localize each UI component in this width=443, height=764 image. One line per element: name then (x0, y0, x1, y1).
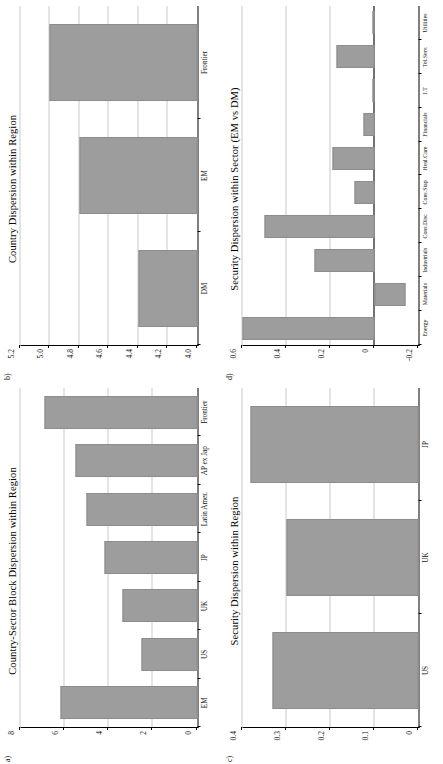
screenshot-page: a) Country-Sector Block Dispersion withi… (0, 0, 443, 764)
plot-wrap-d: -0.200.20.40.6EnergyMaterialsIndustrials… (242, 6, 436, 372)
bar[interactable] (332, 147, 374, 170)
x-axis-tick-label: Cons.Stap (421, 180, 427, 204)
x-axis-tick-label: UK (200, 601, 208, 611)
bar[interactable] (122, 589, 197, 622)
x-axis-tick-label: Industrials (421, 248, 427, 273)
x-axis-tick-mark (197, 532, 200, 533)
x-axis-tick-mark (418, 141, 421, 142)
y-axis-tick-mark (107, 345, 108, 348)
panel-letter-d: d) (224, 373, 233, 380)
panel-title-a: Country-Sector Block Dispersion within R… (6, 388, 17, 754)
x-axis-tick-label: EM (200, 170, 208, 181)
bar[interactable] (264, 215, 374, 238)
bar[interactable] (141, 638, 196, 671)
panel-security-dispersion-sector: d) Security Dispersion within Sector (EM… (222, 0, 443, 382)
x-axis-tick-label: US (200, 650, 208, 659)
bar-slot: Heal.Care (242, 142, 419, 176)
y-axis-tick-label: 0 (405, 731, 414, 735)
y-axis-tick-label: 4.4 (124, 349, 133, 359)
x-axis-tick-label: Latin Amer. (200, 492, 208, 526)
x-axis-tick-label: JP (200, 554, 208, 561)
y-axis-tick-label: 4 (95, 731, 104, 735)
bar-slot: AP ex Jap (20, 436, 197, 484)
y-axis-tick-mark (19, 345, 20, 348)
plot-area-b: 4.04.24.44.64.85.05.2DMEMFrontier (20, 6, 198, 346)
bar[interactable] (138, 250, 197, 327)
panel-title-c: Security Dispersion within Region (228, 388, 239, 754)
y-axis-tick-label: 0.4 (228, 731, 237, 741)
bar[interactable] (336, 45, 374, 68)
y-axis-tick-label: 8 (7, 731, 16, 735)
bar-slot: EM (20, 679, 197, 727)
bar[interactable] (354, 181, 374, 204)
bar[interactable] (272, 632, 418, 709)
y-axis-tick-label: -0.2 (405, 349, 414, 361)
y-axis-tick-mark (240, 345, 241, 348)
bar[interactable] (44, 396, 196, 429)
x-axis-tick-label: Utilities (421, 13, 427, 32)
x-axis-tick-label: Financials (421, 113, 427, 137)
x-axis-tick-label: Tel.Serv. (421, 46, 427, 67)
plot-wrap-c: 00.10.20.30.4USUKJP (242, 388, 436, 754)
bar[interactable] (374, 283, 405, 306)
bar[interactable] (314, 249, 374, 272)
bar-slot: Utilities (242, 6, 419, 40)
bar[interactable] (86, 493, 196, 526)
x-axis-tick-label: Frontier (200, 51, 208, 74)
y-axis-tick-mark (63, 727, 64, 730)
bar[interactable] (372, 79, 374, 102)
x-axis-tick-mark (418, 208, 421, 209)
x-axis-tick-label: Materials (421, 283, 427, 305)
bar-slot: Tel.Serv. (242, 40, 419, 74)
panel-title-d: Security Dispersion within Sector (EM vs… (228, 6, 239, 372)
y-axis-tick-label: 5.2 (7, 349, 16, 359)
panel-country-sector-block-dispersion: a) Country-Sector Block Dispersion withi… (0, 382, 222, 764)
x-axis-tick-mark (197, 435, 200, 436)
bar[interactable] (104, 541, 197, 574)
bar-slot: Frontier (20, 388, 197, 436)
bar[interactable] (363, 113, 374, 136)
y-axis-tick-mark (417, 345, 418, 348)
bar[interactable] (79, 137, 197, 214)
bar[interactable] (242, 317, 374, 340)
bar[interactable] (250, 406, 418, 483)
y-axis-tick-mark (19, 727, 20, 730)
y-axis-tick-label: 4.2 (154, 349, 163, 359)
bar[interactable] (286, 519, 418, 596)
x-axis-tick-mark (418, 242, 421, 243)
bar-slot: Latin Amer. (20, 485, 197, 533)
y-axis-tick-mark (107, 727, 108, 730)
y-axis-tick-mark (195, 727, 196, 730)
x-axis-tick-mark (418, 39, 421, 40)
x-axis-tick-mark (197, 231, 200, 232)
bar[interactable] (372, 11, 374, 34)
bar[interactable] (60, 686, 197, 719)
bar-slot: Financials (242, 108, 419, 142)
plot-wrap-a: 02468EMUSUKJPLatin Amer.AP ex JapFrontie… (20, 388, 214, 754)
y-axis-tick-label: 0.2 (316, 731, 325, 741)
y-axis-tick-mark (77, 345, 78, 348)
x-axis-tick-label: US (421, 666, 429, 675)
x-axis-tick-label: UK (421, 552, 429, 562)
bar[interactable] (75, 444, 196, 477)
y-axis-tick-label: 0.2 (316, 349, 325, 359)
bar-series: DMEMFrontier (20, 6, 197, 345)
y-axis-tick-mark (284, 727, 285, 730)
bar-slot: US (20, 630, 197, 678)
x-axis-tick-label: Energy (421, 320, 427, 337)
y-axis-tick-mark (372, 727, 373, 730)
x-axis-tick-mark (418, 613, 421, 614)
x-axis-tick-mark (197, 484, 200, 485)
x-axis-tick-mark (197, 581, 200, 582)
y-axis-tick-mark (48, 345, 49, 348)
y-axis-tick-label: 0.6 (228, 349, 237, 359)
plot-area-d: -0.200.20.40.6EnergyMaterialsIndustrials… (242, 6, 420, 346)
bar[interactable] (49, 24, 196, 101)
y-axis-tick-label: 0.3 (272, 731, 281, 741)
plot-area-c: 00.10.20.30.4USUKJP (242, 388, 420, 728)
bar-slot: I.T (242, 74, 419, 108)
x-axis-tick-mark (418, 73, 421, 74)
bar-slot: Energy (242, 311, 419, 345)
x-axis-tick-label: Heal.Care (421, 147, 427, 171)
plot-area-a: 02468EMUSUKJPLatin Amer.AP ex JapFrontie… (20, 388, 198, 728)
